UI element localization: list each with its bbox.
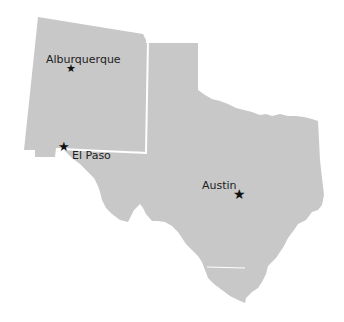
city-label-alburquerque: Alburquerque bbox=[46, 54, 121, 65]
star-icon: ★ bbox=[233, 187, 246, 201]
star-icon: ★ bbox=[66, 63, 76, 74]
star-icon: ★ bbox=[58, 140, 70, 153]
city-label-austin: Austin bbox=[202, 180, 237, 191]
city-label-el-paso: El Paso bbox=[72, 150, 111, 161]
map-canvas bbox=[0, 0, 344, 322]
region-new-mexico bbox=[24, 17, 146, 157]
